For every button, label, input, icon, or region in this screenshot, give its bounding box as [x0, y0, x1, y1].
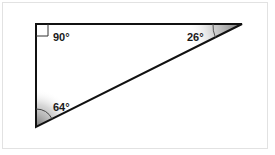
angle-label-26: 26°	[187, 31, 204, 43]
angle-shade-bottom-left	[0, 87, 76, 155]
angle-label-64: 64°	[53, 101, 70, 113]
right-angle-marker	[36, 24, 48, 36]
triangle-diagram: 90° 26° 64°	[0, 0, 275, 155]
angle-label-90: 90°	[53, 31, 70, 43]
